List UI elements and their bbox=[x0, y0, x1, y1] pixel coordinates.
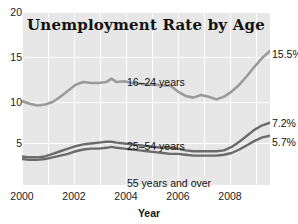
x-tick-2008: 2008 bbox=[213, 190, 247, 202]
end-value-25-54-years: 7.2% bbox=[272, 117, 296, 129]
chart-title: Unemployment Rate by Age bbox=[22, 16, 270, 34]
y-tick-20: 20 bbox=[0, 7, 22, 18]
end-value-55-years-and-over: 5.7% bbox=[272, 136, 296, 148]
series-label-25-54-years: 25–54 years bbox=[127, 140, 185, 152]
y-tick-15: 15 bbox=[0, 52, 22, 63]
end-value-16-24-years: 15.5% bbox=[272, 48, 298, 60]
series-lines bbox=[22, 12, 270, 185]
plot-area: 16–24 years 25–54 years 55 years and ove… bbox=[22, 12, 270, 185]
y-tick-10: 10 bbox=[0, 97, 22, 108]
x-axis-title: Year bbox=[0, 207, 298, 219]
series-label-16-24-years: 16–24 years bbox=[127, 76, 185, 88]
y-tick-5: 5 bbox=[0, 138, 22, 149]
x-tick-2006: 2006 bbox=[161, 190, 195, 202]
unemployment-rate-chart: 16–24 years 25–54 years 55 years and ove… bbox=[0, 0, 298, 224]
x-tick-2004: 2004 bbox=[109, 190, 143, 202]
x-tick-2000: 2000 bbox=[5, 190, 39, 202]
x-tick-2002: 2002 bbox=[57, 190, 91, 202]
series-label-55-years-and-over: 55 years and over bbox=[127, 177, 211, 189]
